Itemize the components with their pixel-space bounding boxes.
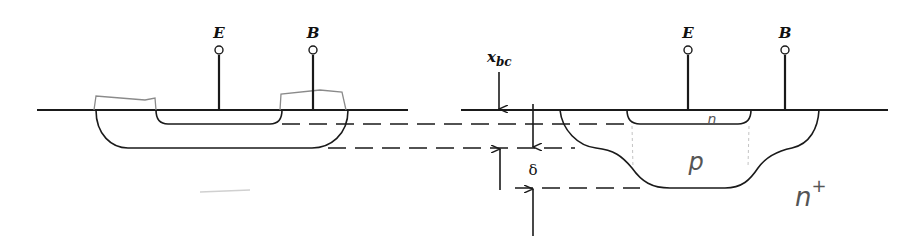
left-emitter-label: E bbox=[212, 24, 225, 42]
left-base-label: B bbox=[306, 24, 320, 42]
left-base-terminal: B bbox=[306, 24, 320, 110]
pencil-guide-left bbox=[632, 126, 633, 168]
right-base-label: B bbox=[778, 24, 792, 42]
left-transistor: E B bbox=[37, 24, 408, 192]
reference-lines bbox=[282, 124, 640, 188]
left-oxide-sketch-1 bbox=[94, 96, 156, 110]
xbc-label: xbc bbox=[486, 48, 512, 69]
left-base-region bbox=[96, 110, 348, 148]
diagram-canvas: E B xbc δ bbox=[0, 0, 919, 247]
left-base-contact-icon bbox=[309, 46, 317, 54]
base-region-label: p bbox=[687, 148, 703, 176]
right-emitter-label: E bbox=[681, 24, 694, 42]
right-transistor: E B n p n+ bbox=[461, 24, 888, 212]
collector-region-label: n+ bbox=[795, 175, 827, 212]
pencil-guide-right bbox=[748, 126, 749, 168]
left-emitter-contact-icon bbox=[215, 46, 223, 54]
right-emitter-terminal: E bbox=[681, 24, 694, 110]
smudge-mark bbox=[200, 190, 250, 192]
left-emitter-region bbox=[156, 110, 282, 124]
dimension-annotations: xbc δ bbox=[486, 48, 538, 236]
delta-label: δ bbox=[528, 161, 537, 179]
right-base-contact-icon bbox=[781, 46, 789, 54]
right-base-terminal: B bbox=[778, 24, 792, 110]
left-emitter-terminal: E bbox=[212, 24, 225, 110]
right-emitter-contact-icon bbox=[684, 46, 692, 54]
right-emitter-region bbox=[627, 110, 751, 124]
emitter-region-label: n bbox=[708, 111, 717, 127]
